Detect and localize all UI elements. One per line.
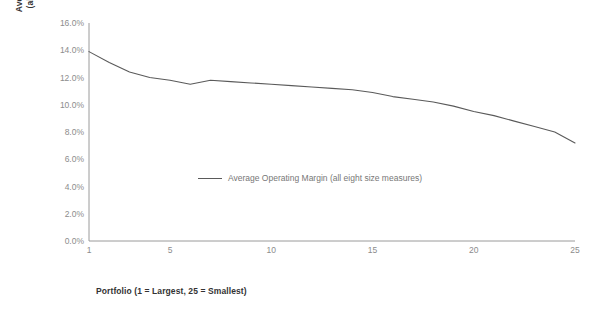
x-axis-tick-label: 15 (361, 245, 385, 256)
x-axis-tick-label: 20 (462, 245, 486, 256)
chart-legend: Average Operating Margin (all eight size… (198, 173, 422, 184)
legend-line-swatch (198, 178, 222, 179)
legend-item-label: Average Operating Margin (all eight size… (228, 173, 422, 184)
axis-lines (89, 23, 575, 241)
x-axis-tick-label: 1 (77, 245, 101, 256)
series-line-average-operating-margin (89, 52, 575, 143)
x-axis-tick-label: 10 (259, 245, 283, 256)
x-axis-tick-label: 25 (563, 245, 587, 256)
x-axis-tick-labels: 1510152025 (0, 245, 598, 259)
plot-area (0, 0, 598, 310)
x-axis-tick-label: 5 (158, 245, 182, 256)
x-axis-title: Portfolio (1 = Largest, 25 = Smallest) (96, 286, 247, 296)
chart-container: Average Operating Margin(all eight size … (0, 0, 598, 310)
